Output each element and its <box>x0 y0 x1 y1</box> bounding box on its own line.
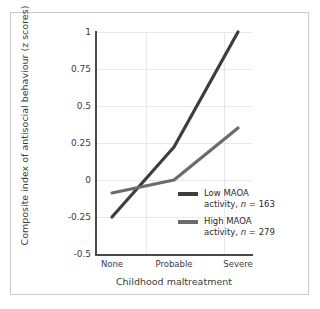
chart-legend: Low MAOAactivity, n = 163 High MAOAactiv… <box>178 188 294 244</box>
legend-label-high-maoa-line1: High MAOA <box>204 216 252 226</box>
legend-label-low-maoa: Low MAOAactivity, n = 163 <box>204 188 275 209</box>
legend-item-low-maoa: Low MAOAactivity, n = 163 <box>178 188 294 209</box>
legend-label-high-maoa-suffix: = 279 <box>246 227 275 237</box>
legend-label-low-maoa-line1: Low MAOA <box>204 188 249 198</box>
legend-label-low-maoa-suffix: = 163 <box>246 199 275 209</box>
legend-label-high-maoa: High MAOAactivity, n = 279 <box>204 216 275 237</box>
legend-label-high-maoa-prefix: activity, <box>204 227 241 237</box>
legend-swatch-high-maoa <box>178 220 198 224</box>
legend-swatch-low-maoa <box>178 192 198 196</box>
figure-container: 1 0.75 0.5 0.25 0 -0.25 -0.5 None Probab… <box>0 0 320 309</box>
legend-label-low-maoa-prefix: activity, <box>204 199 241 209</box>
data-lines <box>0 0 320 309</box>
series-line-high-maoa <box>112 128 238 193</box>
legend-item-high-maoa: High MAOAactivity, n = 279 <box>178 216 294 237</box>
